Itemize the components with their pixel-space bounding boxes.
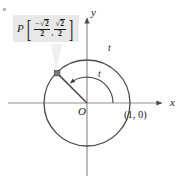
x-numerator: − √ 2 [34,19,50,29]
y-coordinate-fraction: √ 2 2 [54,19,65,39]
right-bracket-icon: ] [68,18,73,39]
y-denominator: 2 [57,30,63,39]
minus-sign: − [35,20,40,28]
callout-leader [51,44,62,71]
angle-arc [71,77,114,103]
left-bracket-icon: [ [27,18,32,39]
unit-circle-diagram: y x O t t (1, 0) P [ − √ 2 2 , √ [0,0,183,180]
point-p-marker [54,70,59,75]
arc-length-label: t [108,44,111,54]
point-p-name: P [17,23,24,34]
y-radicand: 2 [60,19,65,29]
x-axis-label: x [170,97,175,108]
x-radicand: 2 [44,19,49,29]
y-numerator: √ 2 [54,19,65,29]
x-denominator: 2 [39,30,45,39]
y-axis-label: y [91,7,96,18]
point-1-0-label: (1, 0) [124,110,147,121]
coordinate-pair: − √ 2 2 , √ 2 2 [33,19,67,39]
origin-label: O [78,106,86,117]
x-coordinate-fraction: − √ 2 2 [34,19,50,39]
angle-label: t [98,70,101,80]
point-p-callout: P [ − √ 2 2 , √ 2 2 ] [13,15,79,42]
